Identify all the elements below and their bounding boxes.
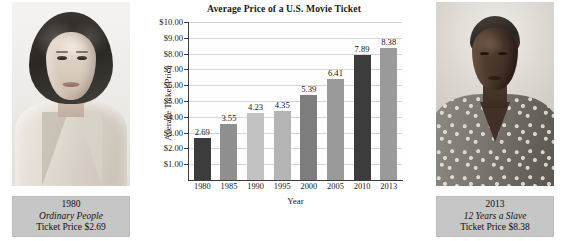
left-caption-year: 1980 bbox=[13, 199, 129, 210]
x-axis-tick-label: 2013 bbox=[376, 182, 402, 191]
portrait-eye-right bbox=[77, 56, 87, 60]
bar bbox=[274, 111, 291, 180]
bar-slot: 2.69 bbox=[189, 22, 215, 180]
y-axis-tick-label: $3.00 bbox=[137, 128, 183, 138]
portrait-eyebrow-left bbox=[56, 51, 68, 53]
bar-slot: 5.39 bbox=[296, 22, 322, 180]
x-axis-ticks: 19801985199019952000200520102013 bbox=[189, 182, 402, 191]
right-caption-year: 2013 bbox=[437, 199, 553, 210]
bar bbox=[380, 48, 397, 180]
portrait-eyebrow-right bbox=[76, 51, 88, 53]
y-axis-tick-label: $10.00 bbox=[137, 17, 183, 27]
left-movie-panel: 1980 Ordinary People Ticket Price $2.69 bbox=[8, 0, 134, 241]
portrait-image-12-years-a-slave bbox=[436, 2, 554, 186]
bar bbox=[220, 124, 237, 180]
bar bbox=[300, 95, 317, 180]
y-axis-tick-label: $6.00 bbox=[137, 80, 183, 90]
bar-slot: 3.55 bbox=[216, 22, 242, 180]
y-axis-tick-label: $5.00 bbox=[137, 96, 183, 106]
portrait-image-ordinary-people bbox=[12, 2, 130, 186]
bar-series: 2.693.554.234.355.396.417.898.38 bbox=[189, 22, 402, 180]
bar-slot: 6.41 bbox=[322, 22, 348, 180]
portrait-mouth bbox=[63, 82, 80, 87]
portrait-eye-right bbox=[498, 52, 507, 55]
bar-value-label: 2.69 bbox=[195, 127, 210, 137]
y-axis-tick-label: $9.00 bbox=[137, 33, 183, 43]
y-axis-tick-label: $7.00 bbox=[137, 64, 183, 74]
bar-value-label: 7.89 bbox=[355, 44, 370, 54]
x-axis-tick-label: 1985 bbox=[216, 182, 242, 191]
portrait-lapel-right bbox=[76, 112, 102, 186]
y-axis-tick-label: $8.00 bbox=[137, 49, 183, 59]
left-caption-ticket-price: Ticket Price $2.69 bbox=[13, 222, 129, 233]
portrait-mouth bbox=[488, 76, 502, 80]
portrait-eye-left bbox=[480, 52, 489, 55]
right-caption-film-title: 12 Years a Slave bbox=[437, 211, 553, 222]
right-photo-caption: 2013 12 Years a Slave Ticket Price $8.38 bbox=[436, 196, 554, 237]
x-axis-tick-label: 1990 bbox=[243, 182, 269, 191]
x-axis-line bbox=[188, 180, 403, 181]
bar-value-label: 4.35 bbox=[275, 100, 290, 110]
bar-slot: 4.35 bbox=[269, 22, 295, 180]
bar-value-label: 8.38 bbox=[381, 37, 396, 47]
left-photo-caption: 1980 Ordinary People Ticket Price $2.69 bbox=[12, 196, 130, 237]
bar bbox=[327, 79, 344, 180]
x-axis-tick-label: 1980 bbox=[189, 182, 215, 191]
bar bbox=[247, 113, 264, 180]
left-caption-film-title: Ordinary People bbox=[13, 211, 129, 222]
y-axis-tick-label: $1.00 bbox=[137, 159, 183, 169]
bar-slot: 8.38 bbox=[376, 22, 402, 180]
right-caption-ticket-price: Ticket Price $8.38 bbox=[437, 222, 553, 233]
bar-value-label: 5.39 bbox=[301, 84, 316, 94]
right-movie-panel: 2013 12 Years a Slave Ticket Price $8.38 bbox=[432, 0, 558, 241]
bar-value-label: 3.55 bbox=[221, 113, 236, 123]
chart-title: Average Price of a U.S. Movie Ticket bbox=[136, 3, 432, 14]
x-axis-tick-label: 2005 bbox=[322, 182, 348, 191]
x-axis-tick-label: 2010 bbox=[349, 182, 375, 191]
x-axis-tick-label: 1995 bbox=[269, 182, 295, 191]
bar-slot: 4.23 bbox=[243, 22, 269, 180]
bar-slot: 7.89 bbox=[349, 22, 375, 180]
y-axis-tick-label: $2.00 bbox=[137, 143, 183, 153]
x-axis-tick-label: 2000 bbox=[296, 182, 322, 191]
bar-value-label: 4.23 bbox=[248, 102, 263, 112]
bar-value-label: 6.41 bbox=[328, 68, 343, 78]
bar bbox=[354, 55, 371, 180]
bar bbox=[194, 138, 211, 181]
x-axis-label: Year bbox=[189, 196, 402, 206]
portrait-eye-left bbox=[57, 56, 67, 60]
portrait-lapel-left bbox=[42, 112, 68, 186]
portrait-face bbox=[472, 28, 518, 90]
y-axis-tick-label: $4.00 bbox=[137, 112, 183, 122]
portrait-neckline bbox=[480, 102, 510, 142]
right-movie-photo bbox=[436, 2, 554, 186]
left-movie-photo bbox=[12, 2, 130, 186]
movie-ticket-price-chart: Average Price of a U.S. Movie Ticket Ave… bbox=[136, 0, 432, 241]
